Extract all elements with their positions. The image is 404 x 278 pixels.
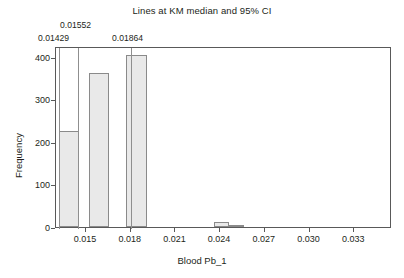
y-axis-title: Frequency: [13, 133, 24, 178]
y-tick-label-400: 400: [16, 53, 50, 63]
y-tick-label-300: 300: [16, 95, 50, 105]
x-tick-label-2: 0.021: [154, 234, 194, 244]
bar-3: [126, 55, 147, 228]
reference-line-2: [131, 48, 132, 229]
refline-label-0: 0.01429: [38, 33, 69, 43]
bar-2: [89, 73, 109, 227]
x-tick-mark-4: [264, 228, 265, 232]
x-axis-title: Blood Pb_1: [0, 255, 404, 266]
x-tick-mark-1: [130, 228, 131, 232]
x-tick-label-5: 0.030: [289, 234, 329, 244]
reference-line-0: [59, 48, 60, 229]
bar-1: [59, 131, 79, 227]
bar-4: [214, 222, 229, 227]
x-tick-mark-2: [174, 228, 175, 232]
histogram-figure: Lines at KM median and 95% CI 0.01429 0.…: [0, 0, 404, 278]
reference-line-1: [78, 48, 79, 229]
x-tick-label-6: 0.033: [333, 234, 373, 244]
chart-title: Lines at KM median and 95% CI: [0, 5, 404, 16]
x-tick-mark-5: [309, 228, 310, 232]
x-tick-label-1: 0.018: [110, 234, 150, 244]
x-tick-mark-3: [219, 228, 220, 232]
bar-5: [229, 225, 244, 227]
y-tick-label-0: 0: [16, 223, 50, 233]
x-tick-label-0: 0.015: [65, 234, 105, 244]
x-tick-label-4: 0.027: [244, 234, 284, 244]
y-tick-mark-0: [51, 228, 55, 229]
plot-area: [55, 47, 391, 228]
x-tick-label-3: 0.024: [199, 234, 239, 244]
refline-label-1: 0.01552: [60, 20, 91, 30]
x-tick-mark-6: [353, 228, 354, 232]
x-tick-mark-0: [85, 228, 86, 232]
y-tick-label-100: 100: [16, 180, 50, 190]
refline-label-2: 0.01864: [112, 33, 143, 43]
